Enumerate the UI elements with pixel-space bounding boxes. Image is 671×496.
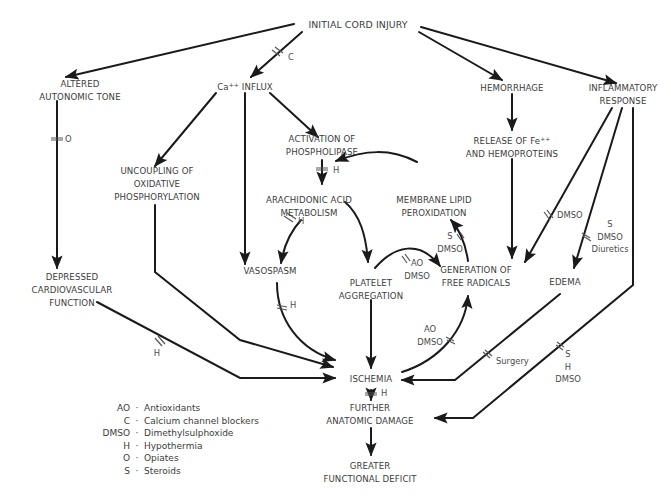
label-s-dmso-membrane: SDMSO <box>437 230 463 255</box>
legend-row: AO·Antioxidants <box>60 402 259 415</box>
legend-row: DMSO·Dimethylsulphoxide <box>60 427 259 440</box>
arrow-ca-to-activation <box>270 93 318 137</box>
node-depressed-cardiovascular-function: DEPRESSEDCARDIOVASCULARFUNCTION <box>32 271 113 310</box>
intervention-block-marks <box>51 47 591 395</box>
label-h-ischemia-further: H <box>381 387 387 400</box>
legend-row: H·Hypothermia <box>60 440 259 453</box>
node-ischemia: ISCHEMIA <box>350 373 393 386</box>
node-altered-autonomic-tone: ALTEREDAUTONOMIC TONE <box>39 78 120 104</box>
node-release-fe-hemoproteins: RELEASE OF Fe++AND HEMOPROTEINS <box>466 132 558 161</box>
label-c-ca: C <box>288 51 294 64</box>
legend-row: O·Opiates <box>60 452 259 465</box>
node-activation-of-phospholipase: ACTIVATION OFPHOSPHOLIPASE <box>286 133 358 159</box>
label-dmso-inflam-radicals: DMSO <box>557 209 583 222</box>
label-s-dmso-diuretics-edema: SDMSODiuretics <box>591 218 628 256</box>
legend-row: S·Steroids <box>60 465 259 478</box>
node-greater-functional-deficit: GREATERFUNCTIONAL DEFICIT <box>323 460 416 486</box>
node-uncoupling-oxidative-phosphorylation: UNCOUPLING OFOXIDATIVEPHOSPHORYLATION <box>114 165 200 204</box>
node-arachidonic-acid-metabolism: ARACHIDONIC ACIDMETABOLISM <box>266 194 352 220</box>
label-o-altered: O <box>65 133 72 146</box>
legend: AO·Antioxidants C·Calcium channel blocke… <box>60 402 259 478</box>
node-further-anatomic-damage: FURTHERANATOMIC DAMAGE <box>326 402 413 428</box>
arrow-initial-to-ca <box>251 32 302 77</box>
node-vasospasm: VASOSPASM <box>243 265 296 278</box>
node-edema: EDEMA <box>549 276 580 289</box>
node-inflammatory-response: INFLAMMATORYRESPONSE <box>589 82 658 108</box>
label-surgery-edema: Surgery <box>496 355 529 368</box>
label-h-phospholipase: H <box>333 164 339 177</box>
label-s-h-dmso-further: SHDMSO <box>555 348 581 386</box>
arrow-initial-to-inflammatory <box>421 27 616 83</box>
node-generation-free-radicals: GENERATION OFFREE RADICALS <box>440 264 512 290</box>
label-ao-dmso-platelet: AODMSO <box>404 257 430 282</box>
arrow-ca-to-uncoupling <box>155 93 216 166</box>
node-platelet-aggregation: PLATELETAGGREGATION <box>339 277 403 303</box>
label-h-arachidonic-vasospasm: H <box>298 215 304 228</box>
node-membrane-lipid-peroxidation: MEMBRANE LIPIDPEROXIDATION <box>396 194 471 220</box>
legend-row: C·Calcium channel blockers <box>60 415 259 428</box>
node-hemorrhage: HEMORRHAGE <box>480 82 543 95</box>
label-h-depressed-ischemia: H <box>154 347 160 360</box>
label-h-vasospasm-ischemia: H <box>290 299 296 312</box>
label-ao-dmso-ischemia-radicals: AODMSO <box>417 323 443 348</box>
arrow-vasospasm-to-ischemia <box>277 283 335 360</box>
node-initial-cord-injury: INITIAL CORD INJURY <box>308 18 407 31</box>
node-ca-influx: Ca++ INFLUX <box>217 78 273 94</box>
